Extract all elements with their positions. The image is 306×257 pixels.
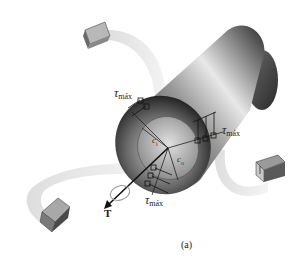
shear-label-bottom: τmáx <box>145 194 163 208</box>
torsion-diagram <box>0 0 306 257</box>
shear-label-right: τmáx <box>222 124 240 138</box>
figure-caption: (a) <box>181 240 192 250</box>
torque-label: T <box>104 208 111 219</box>
outer-radius-label: co <box>177 155 184 166</box>
stress-element-top <box>83 22 110 49</box>
inner-radius-label: ci <box>152 136 158 147</box>
shear-label-top: τmáx <box>114 87 132 101</box>
stress-element-left <box>40 198 70 232</box>
stress-element-right <box>256 155 285 182</box>
